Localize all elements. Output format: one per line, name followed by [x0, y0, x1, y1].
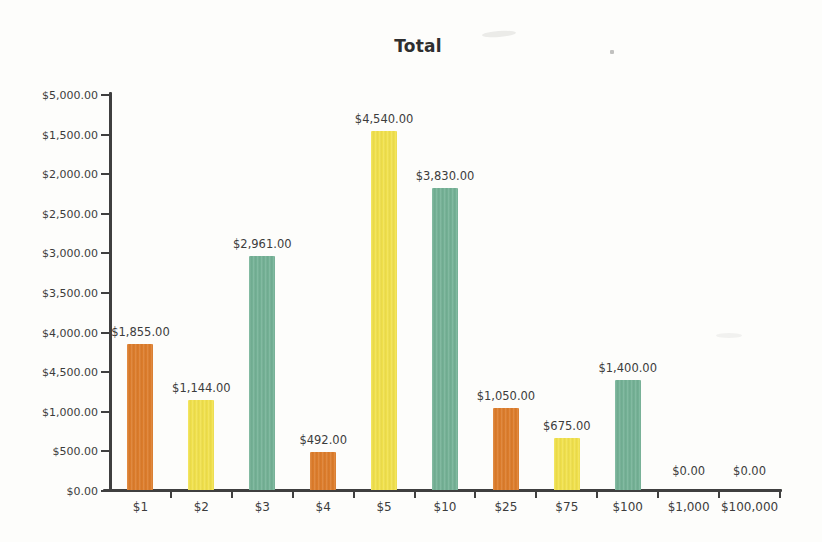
bar-texture — [310, 452, 336, 490]
scan-artifact — [716, 333, 742, 338]
bar-value-label: $1,400.00 — [598, 361, 657, 375]
y-axis-tick — [101, 332, 109, 334]
bar-value-label: $4,540.00 — [355, 112, 414, 126]
y-axis-tick-label: $2,000.00 — [42, 168, 98, 181]
bar — [249, 256, 275, 490]
x-axis-tick — [718, 491, 720, 498]
y-axis-tick-label: $3,500.00 — [42, 287, 98, 300]
bar-texture — [554, 438, 580, 490]
y-axis-tick — [101, 94, 109, 96]
x-axis-category-label: $100,000 — [721, 500, 778, 514]
x-axis-category-label: $1 — [133, 500, 148, 514]
bar-value-label: $2,961.00 — [233, 237, 292, 251]
bar-value-label: $1,050.00 — [477, 389, 536, 403]
y-axis-tick-label: $0.00 — [67, 485, 99, 498]
bar-value-label: $0.00 — [672, 464, 705, 478]
x-axis-category-label: $1,000 — [668, 500, 710, 514]
bar-value-label: $1,855.00 — [111, 325, 170, 339]
bar-texture — [188, 400, 214, 490]
x-axis-category-label: $5 — [376, 500, 391, 514]
bar — [371, 131, 397, 490]
y-axis-line — [109, 92, 112, 492]
x-axis-category-label: $3 — [255, 500, 270, 514]
x-axis-tick — [474, 491, 476, 498]
bar — [554, 438, 580, 490]
bar — [493, 408, 519, 490]
bar-texture — [615, 380, 641, 490]
x-axis-category-label: $4 — [316, 500, 331, 514]
bar — [188, 400, 214, 490]
bar-value-label: $0.00 — [733, 464, 766, 478]
x-axis-tick — [535, 491, 537, 498]
x-axis-category-label: $10 — [434, 500, 457, 514]
bar-texture — [432, 188, 458, 490]
bar — [615, 380, 641, 490]
x-axis-tick — [779, 491, 781, 498]
bar-texture — [249, 256, 275, 490]
y-axis-tick-label: $3,000.00 — [42, 247, 98, 260]
y-axis-tick — [101, 134, 109, 136]
x-axis-tick — [596, 491, 598, 498]
x-axis-category-label: $2 — [194, 500, 209, 514]
y-axis-tick — [101, 252, 109, 254]
y-axis-tick — [101, 173, 109, 175]
bar-value-label: $492.00 — [299, 433, 347, 447]
bar-value-label: $1,144.00 — [172, 381, 231, 395]
y-axis-tick-label: $1,000.00 — [42, 405, 98, 418]
y-axis-tick-label: $1,500.00 — [42, 128, 98, 141]
x-axis-tick — [353, 491, 355, 498]
y-axis-tick-label: $2,500.00 — [42, 207, 98, 220]
bar — [310, 452, 336, 490]
y-axis-tick-label: $4,000.00 — [42, 326, 98, 339]
y-axis-tick — [101, 213, 109, 215]
x-axis-category-label: $100 — [612, 500, 643, 514]
bar-texture — [493, 408, 519, 490]
x-axis-tick — [414, 491, 416, 498]
y-axis-tick — [101, 371, 109, 373]
x-axis-tick — [170, 491, 172, 498]
bar-texture — [127, 344, 153, 490]
x-axis-tick — [231, 491, 233, 498]
x-axis-tick — [292, 491, 294, 498]
bar-value-label: $3,830.00 — [416, 169, 475, 183]
chart-page: Total $5,000.00$1,500.00$2,000.00$2,500.… — [0, 0, 822, 542]
y-axis-tick — [101, 450, 109, 452]
y-axis-tick-label: $4,500.00 — [42, 366, 98, 379]
y-axis-tick-label: $5,000.00 — [42, 89, 98, 102]
scan-artifact — [610, 50, 614, 54]
bar-value-label: $675.00 — [543, 419, 591, 433]
bar — [432, 188, 458, 490]
bar-texture — [371, 131, 397, 490]
x-axis-tick — [657, 491, 659, 498]
bar — [127, 344, 153, 490]
y-axis-tick-label: $500.00 — [53, 445, 99, 458]
y-axis-tick — [101, 411, 109, 413]
x-axis-category-label: $75 — [555, 500, 578, 514]
plot-area: $5,000.00$1,500.00$2,000.00$2,500.00$3,0… — [0, 0, 822, 542]
y-axis-tick — [101, 490, 109, 492]
y-axis-tick — [101, 292, 109, 294]
x-axis-category-label: $25 — [494, 500, 517, 514]
